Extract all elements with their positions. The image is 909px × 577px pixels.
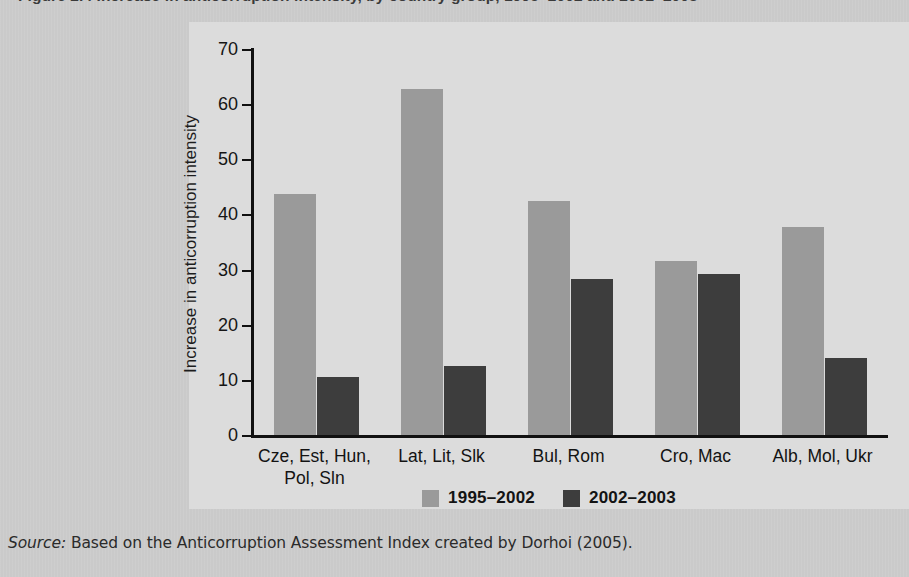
bar-group [274, 49, 359, 435]
y-axis-tick-mark [242, 435, 251, 437]
bar [444, 366, 486, 435]
legend-item: 1995–2002 [422, 488, 535, 508]
y-axis-tick-label: 70 [178, 38, 238, 60]
bar [825, 358, 867, 435]
legend-label: 1995–2002 [448, 488, 535, 508]
figure-title: Figure 2.4 Increase in anticorruption in… [18, 0, 888, 7]
y-axis-tick-label: 50 [178, 148, 238, 170]
y-axis-tick-mark [242, 49, 251, 51]
source-note: Source: Based on the Anticorruption Asse… [8, 534, 898, 552]
x-axis-category-label: Alb, Mol, Ukr [728, 445, 909, 467]
legend-item: 2002–2003 [563, 488, 676, 508]
figure-root: Figure 2.4 Increase in anticorruption in… [0, 0, 909, 577]
chart-plot-panel: Increase in anticorruption intensity 010… [189, 22, 909, 509]
chart-legend: 1995–20022002–2003 [189, 488, 909, 508]
chart-axes-area: 010203040506070 Cze, Est, Hun,Pol, SlnLa… [251, 49, 888, 435]
legend-label: 2002–2003 [589, 488, 676, 508]
legend-swatch [422, 490, 439, 507]
category-label-line: Lat, Lit, Slk [398, 446, 485, 466]
bar [655, 261, 697, 435]
legend-swatch [563, 490, 580, 507]
category-label-line: Cro, Mac [660, 446, 731, 466]
bar [274, 194, 316, 435]
bar [317, 377, 359, 435]
category-label-line: Bul, Rom [533, 446, 605, 466]
y-axis-tick-label: 0 [178, 424, 238, 446]
y-axis-tick-mark [242, 214, 251, 216]
source-text: Based on the Anticorruption Assessment I… [66, 534, 632, 552]
y-axis-tick-mark [242, 104, 251, 106]
y-axis-tick-mark [242, 159, 251, 161]
y-axis-tick-mark [242, 270, 251, 272]
bar [528, 201, 570, 435]
source-label: Source: [8, 534, 66, 552]
bar [782, 227, 824, 435]
category-label-line: Alb, Mol, Ukr [772, 446, 872, 466]
bar-group [401, 49, 486, 435]
category-label-line: Pol, Sln [220, 467, 410, 489]
y-axis-tick-label: 30 [178, 259, 238, 281]
bar [401, 89, 443, 435]
y-axis-tick-label: 40 [178, 203, 238, 225]
bar-group [782, 49, 867, 435]
y-axis-tick-label: 10 [178, 369, 238, 391]
chart-bars-layer [253, 49, 888, 435]
bar-group [655, 49, 740, 435]
bar [571, 279, 613, 435]
bar-group [528, 49, 613, 435]
y-axis-tick-mark [242, 380, 251, 382]
x-axis-line [251, 435, 888, 438]
y-axis-tick-mark [242, 325, 251, 327]
y-axis-tick-label: 60 [178, 93, 238, 115]
y-axis-tick-label: 20 [178, 314, 238, 336]
bar [698, 274, 740, 435]
